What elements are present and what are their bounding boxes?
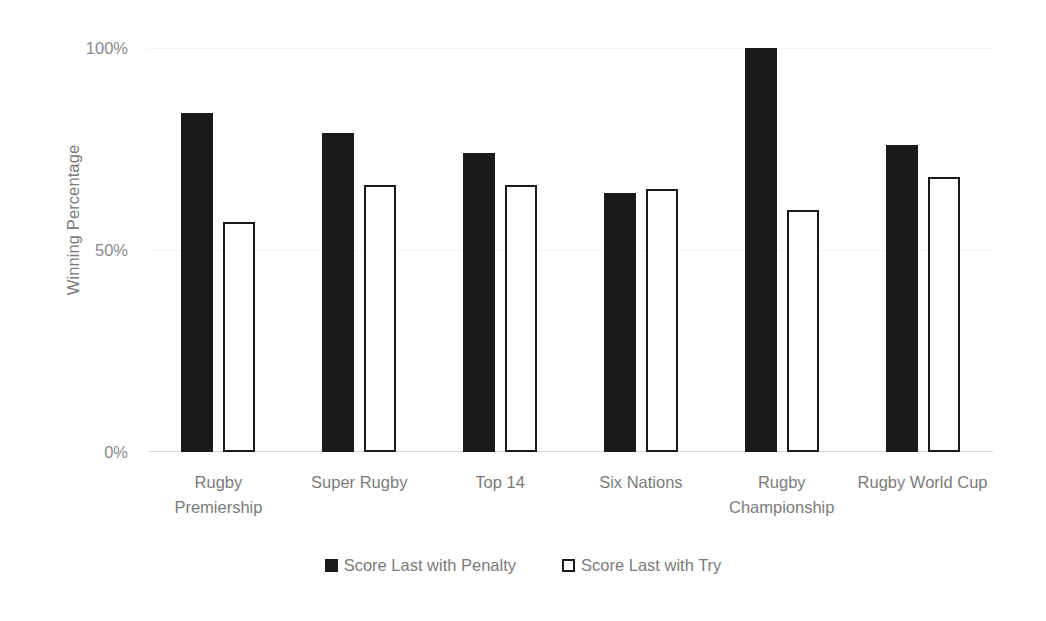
bar-group (711, 48, 852, 452)
bar-try[interactable] (364, 185, 396, 452)
outlined-square-icon (562, 559, 575, 572)
bar-pair (430, 48, 571, 452)
bar-try[interactable] (928, 177, 960, 452)
bar-group (570, 48, 711, 452)
bar-group (852, 48, 993, 452)
y-axis-tick-labels: 100% 50% 0% (0, 48, 138, 452)
x-axis-category-labels: Rugby PremiershipSuper RugbyTop 14Six Na… (148, 462, 993, 532)
bar-try[interactable] (223, 222, 255, 452)
x-axis-label: Six Nations (570, 462, 711, 532)
bar-group (289, 48, 430, 452)
x-axis-label: Super Rugby (289, 462, 430, 532)
legend-item[interactable]: Score Last with Penalty (325, 556, 516, 575)
bar-pair (852, 48, 993, 452)
bar-pair (289, 48, 430, 452)
bar-pair (570, 48, 711, 452)
chart-legend: Score Last with PenaltyScore Last with T… (0, 548, 1046, 582)
x-axis-label: Rugby World Cup (852, 462, 993, 532)
bar-penalty[interactable] (322, 133, 354, 452)
bar-group (430, 48, 571, 452)
bar-pair (148, 48, 289, 452)
bar-try[interactable] (505, 185, 537, 452)
plot-area (148, 48, 993, 452)
bar-chart: Winning Percentage 100% 50% 0% Rugby Pre… (0, 0, 1046, 621)
bar-penalty[interactable] (181, 113, 213, 452)
x-axis-label: Rugby Championship (711, 462, 852, 532)
legend-label: Score Last with Try (581, 556, 721, 575)
bar-try[interactable] (646, 189, 678, 452)
legend-item[interactable]: Score Last with Try (562, 556, 721, 575)
bar-groups (148, 48, 993, 452)
y-tick-label-50: 50% (95, 241, 128, 260)
x-axis-label: Top 14 (430, 462, 571, 532)
bar-penalty[interactable] (745, 48, 777, 452)
bar-penalty[interactable] (604, 193, 636, 452)
bar-penalty[interactable] (463, 153, 495, 452)
y-tick-label-100: 100% (86, 39, 128, 58)
y-tick-label-0: 0% (104, 443, 128, 462)
bar-pair (711, 48, 852, 452)
bar-group (148, 48, 289, 452)
x-axis-label: Rugby Premiership (148, 462, 289, 532)
bar-penalty[interactable] (886, 145, 918, 452)
bar-try[interactable] (787, 210, 819, 452)
filled-square-icon (325, 559, 338, 572)
legend-label: Score Last with Penalty (344, 556, 516, 575)
